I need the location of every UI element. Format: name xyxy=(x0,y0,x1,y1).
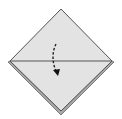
paper-diamond xyxy=(10,9,112,111)
diagram-canvas xyxy=(0,0,122,119)
origami-diagram xyxy=(0,0,122,119)
